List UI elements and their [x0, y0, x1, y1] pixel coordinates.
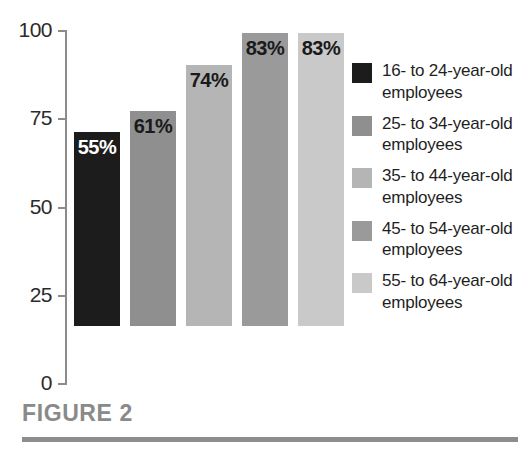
- chart-legend: 16- to 24-year-old employees25- to 34-ye…: [352, 60, 531, 323]
- legend-item-label: 45- to 54-year-old employees: [382, 218, 531, 262]
- y-axis-tick-label: 100: [0, 18, 52, 42]
- bar-value-label: 74%: [186, 70, 232, 90]
- y-axis-tick-mark: [58, 118, 67, 120]
- bar-5: 83%: [298, 33, 344, 326]
- legend-item: 16- to 24-year-old employees: [352, 60, 531, 104]
- y-axis-tick-label: 0: [0, 371, 52, 395]
- legend-item-label: 25- to 34-year-old employees: [382, 113, 531, 157]
- y-axis-tick-label: 75: [0, 106, 52, 130]
- bar-value-label: 83%: [242, 38, 288, 58]
- bar-value-label: 55%: [74, 137, 120, 157]
- legend-item: 45- to 54-year-old employees: [352, 218, 531, 262]
- figure-caption: FIGURE 2: [22, 400, 133, 427]
- caption-divider: [22, 437, 518, 442]
- legend-item-label: 16- to 24-year-old employees: [382, 60, 531, 104]
- legend-swatch-icon: [352, 273, 372, 293]
- y-axis-tick-label: 25: [0, 283, 52, 307]
- bar-value-label: 83%: [298, 38, 344, 58]
- legend-item-label: 55- to 64-year-old employees: [382, 270, 531, 314]
- chart-plot-area: 1007550250 55%61%74%83%83%: [0, 0, 345, 400]
- bar-2: 61%: [130, 111, 176, 326]
- legend-item-label: 35- to 44-year-old employees: [382, 165, 531, 209]
- y-axis-tick-label: 50: [0, 195, 52, 219]
- y-axis-tick-mark: [58, 30, 67, 32]
- bar-value-label: 61%: [130, 116, 176, 136]
- bar-3: 74%: [186, 65, 232, 326]
- legend-item: 55- to 64-year-old employees: [352, 270, 531, 314]
- bar-1: 55%: [74, 132, 120, 326]
- legend-swatch-icon: [352, 63, 372, 83]
- legend-item: 25- to 34-year-old employees: [352, 113, 531, 157]
- y-axis-tick-mark: [58, 295, 67, 297]
- legend-swatch-icon: [352, 116, 372, 136]
- bar-4: 83%: [242, 33, 288, 326]
- y-axis-tick-mark: [58, 383, 67, 385]
- y-axis-tick-mark: [58, 207, 67, 209]
- legend-swatch-icon: [352, 168, 372, 188]
- legend-swatch-icon: [352, 221, 372, 241]
- figure-container: 1007550250 55%61%74%83%83% 16- to 24-yea…: [0, 0, 531, 457]
- legend-item: 35- to 44-year-old employees: [352, 165, 531, 209]
